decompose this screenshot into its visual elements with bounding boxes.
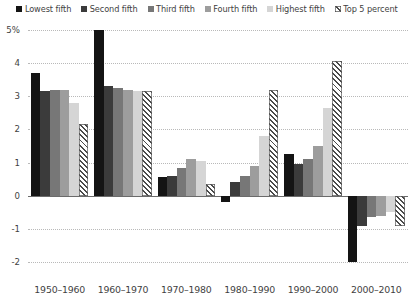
chart-legend: Lowest fifthSecond fifthThird fifthFourt…	[0, 0, 412, 18]
bar[interactable]	[386, 196, 396, 213]
legend-item-label: Second fifth	[90, 5, 138, 14]
bar[interactable]	[357, 196, 367, 226]
bar[interactable]	[50, 90, 60, 196]
legend-item-3[interactable]: Fourth fifth	[205, 5, 258, 14]
bar[interactable]	[367, 196, 377, 218]
bar-slot	[259, 30, 269, 262]
bar[interactable]	[395, 196, 405, 226]
y-axis-tick-label: 3	[0, 92, 20, 101]
bar[interactable]	[348, 196, 358, 262]
y-axis-tick-label: 0	[0, 191, 20, 200]
bar-slot	[395, 30, 405, 262]
y-axis-tick-label: 5%	[0, 26, 20, 35]
bar-slot	[313, 30, 323, 262]
legend-item-1[interactable]: Second fifth	[81, 5, 137, 14]
bar[interactable]	[123, 90, 133, 196]
bar-group-0	[28, 30, 91, 262]
legend-item-label: Fourth fifth	[213, 5, 257, 14]
bar-slot	[196, 30, 206, 262]
bar-slot	[294, 30, 304, 262]
bar[interactable]	[313, 146, 323, 196]
bar-group-5	[345, 30, 408, 262]
x-axis-tick-label: 2000–2010	[345, 282, 408, 298]
bar[interactable]	[269, 90, 279, 196]
bar[interactable]	[31, 73, 41, 196]
bar[interactable]	[284, 154, 294, 195]
bar[interactable]	[332, 61, 342, 195]
bar-slot	[167, 30, 177, 262]
legend-swatch-icon	[267, 6, 273, 12]
bar[interactable]	[250, 166, 260, 196]
bar-slot	[40, 30, 50, 262]
bar[interactable]	[40, 91, 50, 195]
bar-group-4	[281, 30, 344, 262]
bar-slot	[133, 30, 143, 262]
bar-slot	[60, 30, 70, 262]
gridline	[28, 262, 408, 263]
legend-item-label: Top 5 percent	[343, 5, 397, 14]
legend-item-2[interactable]: Third fifth	[148, 5, 195, 14]
bar-slot	[79, 30, 89, 262]
bar-slot	[240, 30, 250, 262]
bar[interactable]	[376, 196, 386, 216]
bar[interactable]	[69, 103, 79, 196]
y-axis-tick-label: -1	[0, 224, 20, 233]
bar[interactable]	[94, 30, 104, 196]
bar-slot	[250, 30, 260, 262]
bar-slot	[284, 30, 294, 262]
bar[interactable]	[133, 91, 143, 195]
bar-slot	[123, 30, 133, 262]
legend-item-4[interactable]: Highest fifth	[267, 5, 324, 14]
bar[interactable]	[113, 88, 123, 196]
bar[interactable]	[323, 108, 333, 196]
bar-group-1	[91, 30, 154, 262]
legend-swatch-icon	[335, 6, 341, 12]
bar[interactable]	[142, 91, 152, 195]
bar[interactable]	[158, 177, 168, 195]
legend-item-label: Highest fifth	[276, 5, 325, 14]
x-axis-tick-label: 1960–1970	[91, 282, 154, 298]
bar-slot	[269, 30, 279, 262]
y-axis-tick-label: 4	[0, 59, 20, 68]
bar-slot	[348, 30, 358, 262]
bar-slot	[367, 30, 377, 262]
chart-plot-area: 5%43210-1-2	[0, 20, 412, 280]
bar[interactable]	[259, 136, 269, 196]
legend-item-label: Third fifth	[156, 5, 195, 14]
bar-slot	[376, 30, 386, 262]
bar[interactable]	[60, 90, 70, 196]
legend-swatch-icon	[205, 6, 211, 12]
bar[interactable]	[186, 159, 196, 195]
bar-slot	[177, 30, 187, 262]
legend-item-label: Lowest fifth	[25, 5, 71, 14]
bar[interactable]	[177, 168, 187, 196]
bar-slot	[323, 30, 333, 262]
bar-slot	[357, 30, 367, 262]
bar[interactable]	[240, 176, 250, 196]
bar-slot	[386, 30, 396, 262]
legend-swatch-icon	[81, 6, 87, 12]
bar[interactable]	[79, 124, 89, 195]
bar[interactable]	[167, 176, 177, 196]
legend-swatch-icon	[148, 6, 154, 12]
legend-swatch-icon	[16, 6, 22, 12]
bar-slot	[113, 30, 123, 262]
bar[interactable]	[230, 182, 240, 195]
y-axis-tick-label: 2	[0, 125, 20, 134]
bar[interactable]	[294, 164, 304, 195]
bar-slot	[142, 30, 152, 262]
bar[interactable]	[104, 86, 114, 195]
bar[interactable]	[303, 159, 313, 195]
bar[interactable]	[221, 196, 231, 203]
bar[interactable]	[196, 161, 206, 196]
bar-slot	[158, 30, 168, 262]
bar-slot	[104, 30, 114, 262]
x-axis-tick-label: 1970–1980	[155, 282, 218, 298]
bar-slot	[221, 30, 231, 262]
bar-slot	[50, 30, 60, 262]
chart-bars	[28, 30, 408, 262]
legend-item-0[interactable]: Lowest fifth	[16, 5, 71, 14]
bar-slot	[94, 30, 104, 262]
legend-item-5[interactable]: Top 5 percent	[335, 5, 398, 14]
bar[interactable]	[206, 184, 216, 196]
